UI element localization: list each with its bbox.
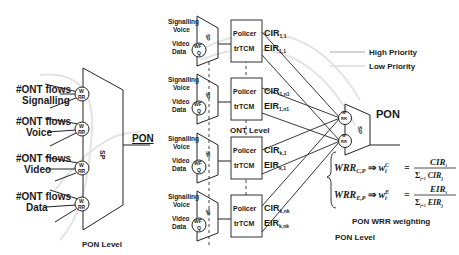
policer-trtcm — [231, 195, 262, 237]
svg-text:SP: SP — [205, 34, 211, 41]
svg-text:WF: WF — [194, 218, 202, 224]
svg-text:trTCM: trTCM — [234, 162, 254, 169]
svg-text:RR: RR — [78, 204, 86, 210]
input-voice: Voice — [173, 84, 190, 91]
input-video: Video — [172, 40, 190, 47]
policer-trtcm — [231, 78, 262, 120]
formula-committed: WRRC,P ⇒ wCi ⇒ = CIRi Σj=1 CIRj — [334, 157, 456, 181]
svg-text:W: W — [342, 110, 346, 115]
pon-output-label-left: PON — [132, 133, 154, 144]
ont-level-label: ONT Level — [230, 126, 270, 135]
input-video: Video — [172, 215, 190, 222]
pon-level-label-right: PON Level — [335, 233, 375, 242]
svg-text:WRRC,P ⇒ wCi ⇒: WRRC,P ⇒ wCi ⇒ — [334, 162, 398, 174]
svg-text:WF: WF — [194, 160, 202, 166]
group-title: #ONT flows — [16, 153, 71, 164]
pon-wrr-weighting-label: PON WRR weighting — [352, 217, 430, 226]
pon-level-right: High Priority Low Priority SP PON W RR W… — [262, 32, 456, 242]
svg-text:trTCM: trTCM — [234, 45, 254, 52]
svg-text:WF: WF — [194, 43, 202, 49]
svg-text:Q: Q — [197, 50, 201, 56]
group-name: Voice — [26, 127, 52, 138]
input-voice: Voice — [173, 26, 190, 33]
group-name: Signalling — [22, 95, 70, 106]
svg-text:Policer: Policer — [233, 205, 257, 212]
eir-label: EIR1,n1 — [264, 101, 289, 112]
sp-mux — [197, 74, 218, 124]
sp-mux — [197, 16, 218, 66]
ont-block-2: SignallingVoiceVideoDataSPWFQPolicertrTC… — [168, 133, 287, 183]
input-voice: Voice — [173, 201, 190, 208]
sp-mux — [197, 133, 218, 183]
svg-text:Σj=1 EIRj: Σj=1 EIRj — [415, 198, 443, 208]
legend-high-priority: High Priority — [369, 48, 418, 57]
svg-text:RR: RR — [341, 116, 347, 121]
svg-text:=: = — [404, 189, 410, 200]
policer-trtcm — [231, 137, 262, 179]
svg-text:SP: SP — [205, 92, 211, 99]
eir-label: EIRk,nk — [264, 218, 289, 229]
svg-text:SP: SP — [357, 126, 363, 134]
input-data: Data — [172, 165, 186, 172]
svg-text:Q: Q — [197, 225, 201, 231]
sp-mux — [197, 191, 218, 241]
svg-text:WRRE,P ⇒ wEi: WRRE,P ⇒ wEi — [334, 189, 389, 201]
svg-text:trTCM: trTCM — [234, 103, 254, 110]
wrr-group-voice: #ONT flows Voice W RR — [16, 116, 89, 146]
input-signalling: Signalling — [168, 76, 199, 84]
svg-text:SP: SP — [205, 209, 211, 216]
eir-label: EIR1,1 — [264, 43, 286, 54]
input-signalling: Signalling — [168, 135, 199, 143]
svg-text:RR: RR — [78, 168, 86, 174]
svg-text:trTCM: trTCM — [234, 220, 254, 227]
input-data: Data — [172, 48, 186, 55]
legend-low-priority: Low Priority — [369, 62, 416, 71]
wrr-group-signalling: #ONT flows Signalling W RR — [16, 84, 89, 108]
wrr-group-data: #ONT flows Data W RR — [16, 190, 89, 222]
svg-text:RR: RR — [78, 94, 86, 100]
formula-excess: WRRE,P ⇒ wEi = EIRi Σj=1 EIRj — [334, 184, 456, 208]
ont-block-3: SignallingVoiceVideoDataSPWFQPolicertrTC… — [168, 191, 290, 241]
ont-block-0: SignallingVoiceVideoDataSPWFQPolicertrTC… — [168, 16, 287, 66]
svg-text:=: = — [404, 162, 410, 173]
svg-text:Σj=1 CIRj: Σj=1 CIRj — [415, 171, 443, 181]
svg-text:Q: Q — [197, 167, 201, 173]
svg-text:CIRi: CIRi — [430, 157, 448, 168]
svg-text:SP: SP — [205, 151, 211, 158]
group-name: Data — [26, 202, 48, 213]
svg-text:Policer: Policer — [233, 30, 257, 37]
svg-text:EIRi: EIRi — [429, 184, 448, 195]
qos-architecture-diagram: SP PON #ONT flows Signalling W RR #ONT f… — [0, 0, 459, 255]
svg-text:WF: WF — [194, 101, 202, 107]
cir-label: CIR1,n1 — [264, 86, 290, 97]
wrr-group-video: #ONT flows Video W RR — [16, 153, 89, 181]
group-title: #ONT flows — [16, 191, 71, 202]
input-signalling: Signalling — [168, 18, 199, 26]
group-title: #ONT flows — [16, 84, 71, 95]
svg-text:Policer: Policer — [233, 147, 257, 154]
policer-trtcm — [231, 20, 262, 62]
svg-text:Policer: Policer — [233, 88, 257, 95]
svg-text:W: W — [342, 133, 346, 138]
pon-level-left: SP PON #ONT flows Signalling W RR #ONT f… — [16, 68, 154, 249]
input-video: Video — [172, 98, 190, 105]
input-data: Data — [172, 106, 186, 113]
sp-mux-label: SP — [99, 150, 106, 160]
svg-text:Q: Q — [197, 108, 201, 114]
input-voice: Voice — [173, 143, 190, 150]
svg-text:RR: RR — [78, 129, 86, 135]
pon-output-label-right: PON — [376, 108, 400, 120]
input-video: Video — [172, 157, 190, 164]
svg-text:RR: RR — [341, 139, 347, 144]
input-data: Data — [172, 223, 186, 230]
cir-label: CIRk,1 — [264, 145, 287, 156]
pon-level-label-left: PON Level — [82, 240, 122, 249]
input-signalling: Signalling — [168, 193, 199, 201]
